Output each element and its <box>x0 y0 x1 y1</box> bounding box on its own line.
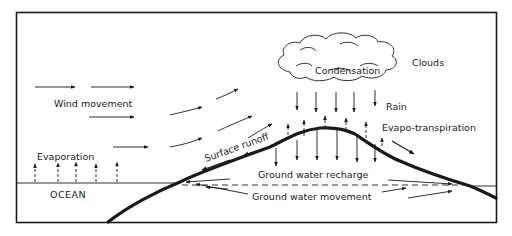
evapo-transpiration-label: Evapo-transpiration <box>382 122 476 133</box>
clouds-label: Clouds <box>412 57 444 68</box>
wind-arrows <box>35 87 272 147</box>
evaporation-arrows <box>35 162 117 182</box>
ground-water-recharge-label: Ground water recharge <box>258 169 368 180</box>
hydrologic-cycle-diagram: Condensation Clouds Rain Evapo-transpira… <box>0 0 512 236</box>
ground-water-movement-label: Ground water movement <box>252 191 372 202</box>
rain-arrows <box>297 90 375 112</box>
evaporation-label: Evaporation <box>37 151 94 162</box>
ocean-label: OCEAN <box>50 189 86 200</box>
rain-label: Rain <box>386 101 407 112</box>
wind-movement-label: Wind movement <box>54 98 133 109</box>
condensation-label: Condensation <box>315 65 380 76</box>
